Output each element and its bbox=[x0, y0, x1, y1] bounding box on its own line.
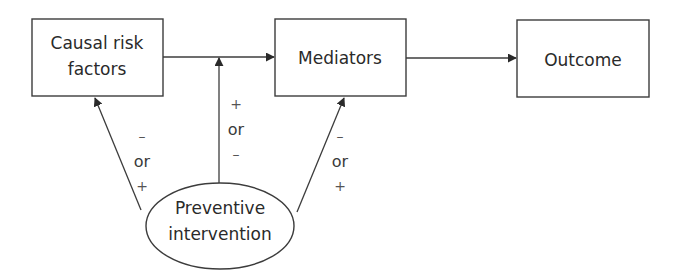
middle-or: or bbox=[228, 120, 245, 139]
node-outcome: Outcome bbox=[517, 20, 649, 97]
right-or: or bbox=[332, 152, 349, 171]
left-or: or bbox=[134, 152, 151, 171]
left-sign-bottom: + bbox=[136, 178, 148, 194]
middle-sign-bottom: – bbox=[233, 146, 240, 162]
intervention-label-line1: Preventive bbox=[175, 198, 265, 218]
right-sign-bottom: + bbox=[334, 178, 346, 194]
right-sign-top: – bbox=[337, 128, 344, 144]
outcome-label: Outcome bbox=[544, 50, 622, 70]
causal-diagram: Causal risk factors Mediators Outcome Pr… bbox=[0, 0, 674, 273]
left-sign-top: – bbox=[139, 128, 146, 144]
mediators-label: Mediators bbox=[298, 48, 382, 68]
node-preventive-intervention: Preventive intervention bbox=[146, 183, 294, 269]
middle-sign-top: + bbox=[230, 96, 242, 112]
causal-label-line2: factors bbox=[68, 59, 127, 79]
causal-label-line1: Causal risk bbox=[51, 33, 144, 53]
node-mediators: Mediators bbox=[275, 19, 406, 96]
node-causal-risk-factors: Causal risk factors bbox=[32, 19, 163, 96]
right-edge-labels: – or + bbox=[332, 128, 349, 194]
middle-edge-labels: + or – bbox=[228, 96, 245, 162]
left-edge-labels: – or + bbox=[134, 128, 151, 194]
intervention-label-line2: intervention bbox=[168, 224, 271, 244]
